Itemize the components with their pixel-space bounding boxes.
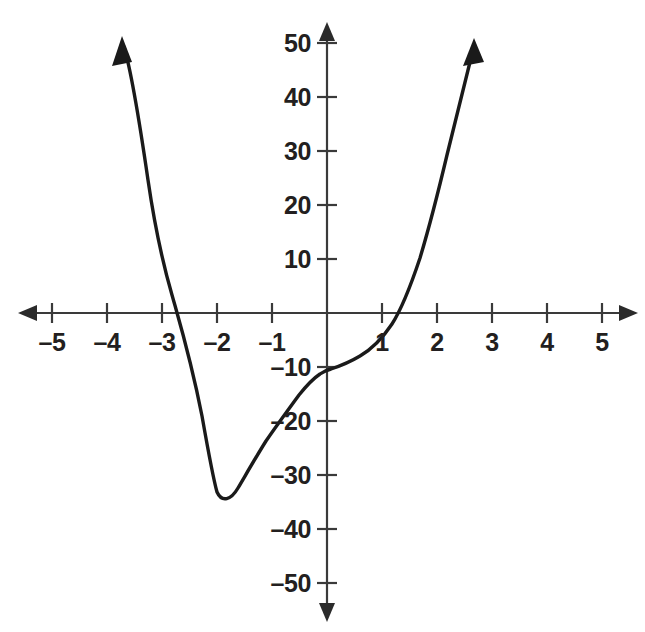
y-tick-label-40: 40 bbox=[284, 85, 311, 110]
x-tick-label-2: 2 bbox=[430, 330, 444, 355]
cartesian-plot-svg bbox=[0, 0, 645, 632]
x-tick-label-1: 1 bbox=[375, 330, 389, 355]
right-branch-arrowhead bbox=[463, 38, 484, 66]
x-tick-label--1: –1 bbox=[258, 330, 285, 355]
y-tick-label-50: 50 bbox=[284, 31, 311, 56]
x-tick-label-4: 4 bbox=[540, 330, 554, 355]
y-axis-group bbox=[319, 22, 335, 622]
y-tick-label-10: 10 bbox=[284, 247, 311, 272]
y-tick-label-30: 30 bbox=[284, 139, 311, 164]
graph-figure: –5 –4 –3 –2 –1 1 2 3 4 5 50 40 30 20 10 … bbox=[0, 0, 645, 632]
y-tick-label--50: –50 bbox=[270, 571, 311, 596]
x-tick-label--3: –3 bbox=[148, 330, 175, 355]
x-tick-label-3: 3 bbox=[485, 330, 499, 355]
x-tick-label--4: –4 bbox=[93, 330, 120, 355]
y-tick-label-20: 20 bbox=[284, 193, 311, 218]
x-axis-right-arrowhead bbox=[619, 305, 638, 321]
y-tick-label--20: –20 bbox=[270, 409, 311, 434]
y-axis-top-arrowhead bbox=[319, 22, 335, 41]
x-tick-label--5: –5 bbox=[38, 330, 65, 355]
y-axis-bottom-arrowhead bbox=[319, 603, 335, 622]
y-tick-label--10: –10 bbox=[270, 355, 311, 380]
x-tick-label-5: 5 bbox=[595, 330, 609, 355]
y-tick-label--30: –30 bbox=[270, 463, 311, 488]
x-axis-left-arrowhead bbox=[18, 305, 37, 321]
x-tick-label--2: –2 bbox=[203, 330, 230, 355]
y-tick-label--40: –40 bbox=[270, 517, 311, 542]
left-branch-arrowhead bbox=[112, 36, 132, 66]
